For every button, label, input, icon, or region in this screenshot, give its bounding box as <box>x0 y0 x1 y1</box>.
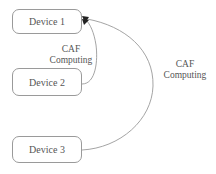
node-device1[interactable]: Device 1 <box>12 9 82 34</box>
node-label: Device 1 <box>29 16 65 27</box>
node-label: Device 3 <box>29 144 65 155</box>
edge-device3-to-device1 <box>82 19 153 150</box>
edge-label-device2: CAF Computing <box>46 44 96 66</box>
node-device2[interactable]: Device 2 <box>12 68 82 96</box>
edge-label-device3: CAF Computing <box>158 59 212 81</box>
node-label: Device 2 <box>29 77 65 88</box>
node-device3[interactable]: Device 3 <box>12 136 82 163</box>
